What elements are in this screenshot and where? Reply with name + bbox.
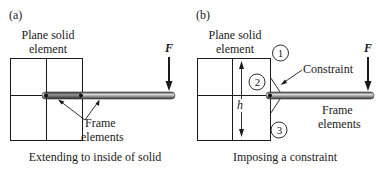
panel-a-frame-label-line2: elements [81,131,124,144]
node-dot [44,94,48,98]
panel-a-tag: (a) [9,9,22,22]
frame-rod-a [42,92,175,99]
panel-b-solid-label-line1: Plane solid [195,29,275,42]
diagram-canvas [0,0,380,169]
node-dot [79,94,83,98]
panel-a-caption: Extending to inside of solid [0,151,190,164]
panel-b-force-label: F [364,42,372,55]
node-dot [268,94,272,98]
node-2-label: 2 [252,76,263,89]
height-label: h [237,99,243,112]
force-arrow-a [166,57,173,91]
plane-solid-element-b [198,59,271,141]
constraint-leader-line [281,70,303,85]
node-3-label: 3 [274,124,285,137]
panel-b-solid-label-line2: element [195,43,275,56]
panel-a-frame-label-line1: Frame [85,117,116,130]
panel-a-force-label: F [165,42,173,55]
panel-a-solid-label-line1: Plane solid [8,29,88,42]
constraint-label: Constraint [303,63,353,76]
frame-rod-b [266,92,374,99]
panel-b-frame-label-line1: Frame [322,104,353,117]
force-arrow-b [365,57,372,91]
panel-b-caption: Imposing a constraint [190,151,380,164]
panel-b-tag: (b) [196,9,210,22]
plane-solid-element-a [11,59,83,141]
node-1-label: 1 [275,47,286,60]
panel-b-frame-label-line2: elements [318,118,361,131]
panel-a-solid-label-line2: element [8,43,88,56]
